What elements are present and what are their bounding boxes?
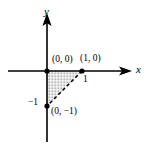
x-tick-label-1: 1 (83, 75, 88, 85)
x-axis-label: x (136, 64, 141, 75)
vertex-dot-point-1-0 (79, 68, 84, 73)
point-label-1-0: (1, 0) (80, 54, 101, 64)
vertex-dot-point-0-minus1 (44, 103, 49, 108)
figure-canvas (0, 0, 152, 150)
coordinate-plane-figure: y x (0, 0) (1, 0) (0, −1) 1 −1 (0, 0, 152, 150)
point-label-origin: (0, 0) (52, 55, 73, 65)
y-axis-label: y (44, 6, 49, 17)
point-label-0-minus1: (0, −1) (51, 107, 77, 117)
vertex-dot-origin (44, 68, 49, 73)
y-tick-label-minus1: −1 (28, 98, 38, 108)
